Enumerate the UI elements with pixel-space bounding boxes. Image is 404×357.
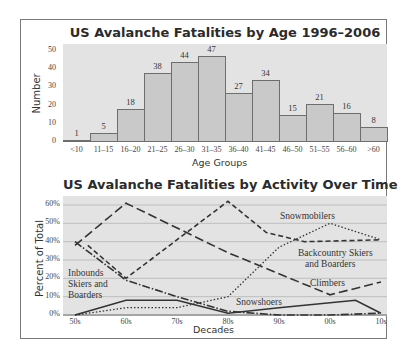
series-snowshoers [75, 300, 381, 315]
label-inbounds-line1: Inbounds [68, 268, 103, 278]
label-snowmobilers: Snowmobilers [280, 211, 335, 221]
label-climbers: Climbers [310, 278, 345, 288]
line-x-tick: 60s [116, 317, 136, 326]
label-backcountry-line2: and Boarders [305, 259, 355, 269]
label-snowshoers: Snowshoers [236, 297, 282, 307]
line-x-axis-label: Decades [193, 324, 234, 335]
line-x-tick: 10s [371, 317, 391, 326]
line-x-tick: 70s [167, 317, 187, 326]
line-x-tick: 90s [269, 317, 289, 326]
label-backcountry-line1: Backcountry Skiers [298, 248, 373, 258]
label-inbounds-line3: Boarders [68, 290, 102, 300]
line-x-tick: 50s [65, 317, 85, 326]
label-inbounds-line2: Skiers and [68, 279, 108, 289]
line-plot-svg [0, 0, 404, 357]
line-x-tick: 00s [320, 317, 340, 326]
